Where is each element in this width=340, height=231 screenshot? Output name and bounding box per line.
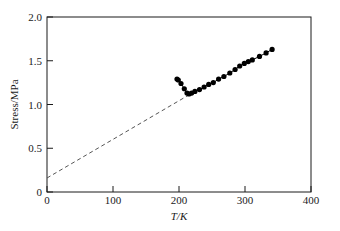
chart-figure: 0 100 200 300 400 0 0.5 1.0 1.5 2.0 Stre… [0,0,340,231]
data-point [216,77,221,82]
data-point [197,87,202,92]
x-tick-label: 0 [44,194,50,206]
y-tick-labels: 0 0.5 1.0 1.5 2.0 [28,11,42,198]
x-axis-title: T/K [171,210,188,222]
data-point [237,63,242,68]
data-point [264,50,269,55]
y-axis-ticks [47,17,53,192]
y-tick-label: 0.5 [28,142,42,154]
y-tick-label: 0 [37,186,43,198]
y-axis-title: Stress/MPa [8,79,20,129]
stress-temperature-plot: 0 100 200 300 400 0 0.5 1.0 1.5 2.0 Stre… [0,0,340,231]
x-axis-ticks [47,186,311,192]
fit-line-dashed [47,92,194,178]
data-point [182,86,187,91]
plot-frame [47,17,311,192]
x-tick-label: 200 [171,194,188,206]
y-tick-label: 1.5 [28,55,42,67]
data-point [202,84,207,89]
data-point [211,80,216,85]
y-tick-label: 2.0 [28,11,42,23]
data-point [221,74,226,79]
x-tick-label: 300 [237,194,254,206]
data-point [178,81,183,86]
x-tick-labels: 0 100 200 300 400 [44,194,320,206]
x-tick-label: 100 [105,194,122,206]
y-tick-label: 1.0 [28,99,42,111]
data-point [206,82,211,87]
data-point [257,54,262,59]
data-point [233,67,238,72]
data-point [192,89,197,94]
x-tick-label: 400 [303,194,320,206]
data-point-markers [174,47,274,97]
data-point [250,57,255,62]
data-point [227,70,232,75]
data-point [270,47,275,52]
